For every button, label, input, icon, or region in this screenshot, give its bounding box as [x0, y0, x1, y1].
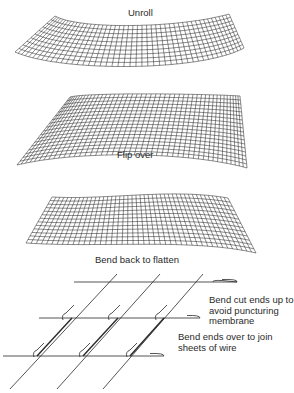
mesh-sheet-unroll — [15, 14, 244, 67]
mesh-sheet-bend-back — [26, 194, 256, 253]
mesh-grid-lines — [15, 14, 244, 67]
overlap-wire — [130, 318, 164, 356]
diagonal-wire — [10, 274, 117, 389]
annotation-bend-ends-over: Bend ends over to join sheets of wire — [178, 332, 273, 353]
step-label-unroll: Unroll — [128, 8, 153, 19]
overlap-wire — [37, 318, 72, 356]
step-label-bend-back: Bend back to flatten — [95, 255, 179, 266]
mesh-grid-lines — [26, 194, 256, 253]
diagonal-wire — [57, 274, 160, 389]
step-label-flip-over: Flip over — [117, 150, 153, 161]
overlap-wire — [83, 318, 118, 356]
annotation-bend-cut-ends: Bend cut ends up to avoid puncturing mem… — [209, 295, 294, 327]
